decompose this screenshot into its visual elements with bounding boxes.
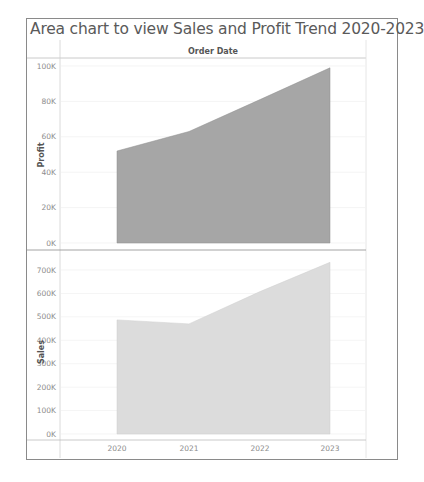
profit-area[interactable] — [117, 68, 330, 243]
sales-axis-title: Sales — [37, 340, 46, 364]
profit-axis-title: Profit — [37, 142, 46, 167]
y-tick-label: 20K — [42, 203, 58, 212]
y-tick-label: 700K — [37, 266, 57, 275]
y-tick-label: 80K — [42, 97, 58, 106]
sales-area[interactable] — [117, 262, 330, 434]
y-tick-label: 600K — [37, 289, 57, 298]
x-tick-label: 2020 — [107, 444, 126, 453]
x-axis-ticks: 2020202120222023 — [107, 444, 339, 453]
y-tick-label: 200K — [37, 383, 57, 392]
y-tick-label: 60K — [42, 132, 58, 141]
y-tick-label: 100K — [37, 406, 57, 415]
y-tick-label: 0K — [46, 239, 57, 248]
x-tick-label: 2021 — [179, 444, 198, 453]
x-tick-label: 2022 — [250, 444, 269, 453]
y-tick-label: 100K — [37, 62, 57, 71]
y-tick-label: 0K — [46, 430, 57, 439]
y-tick-label: 40K — [42, 168, 58, 177]
y-tick-label: 500K — [37, 312, 57, 321]
x-tick-label: 2023 — [320, 444, 339, 453]
